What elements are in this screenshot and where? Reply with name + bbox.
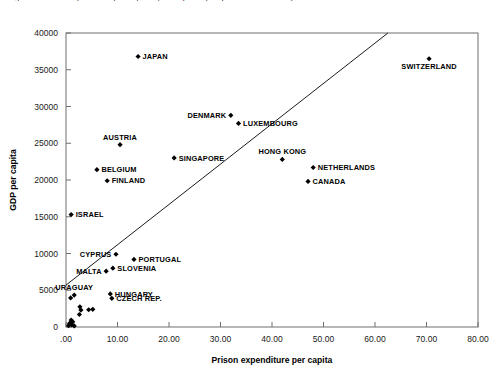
data-point-marker xyxy=(228,113,233,118)
data-points-layer xyxy=(66,54,432,329)
x-tick-label: 70.00 xyxy=(416,334,438,344)
x-tick-label: 50.00 xyxy=(313,334,335,344)
x-tick-label: 80.00 xyxy=(467,334,489,344)
data-point-marker xyxy=(104,269,109,274)
point-label: LUXEMBOURG xyxy=(243,119,298,128)
point-label: SINGAPORE xyxy=(179,154,225,163)
point-label: CYPRUS xyxy=(80,250,112,259)
data-point-marker xyxy=(280,157,285,162)
data-point-marker xyxy=(305,179,310,184)
point-label: ISRAEL xyxy=(76,210,104,219)
point-label: AUSTRIA xyxy=(103,133,137,142)
y-tick-label: 25000 xyxy=(34,138,58,148)
point-label: NETHERLANDS xyxy=(318,163,376,172)
data-point-marker xyxy=(131,257,136,262)
data-point-marker xyxy=(105,178,110,183)
x-tick-label: 20.00 xyxy=(158,334,180,344)
clipped-figure-title: Figure 1. Prison expenditure per capita … xyxy=(8,0,428,1)
chart-canvas: 0500010000150002000025000300003500040000… xyxy=(0,0,503,373)
scatter-chart: Figure 1. Prison expenditure per capita … xyxy=(0,0,503,373)
y-tick-label: 15000 xyxy=(34,212,58,222)
point-labels-layer: JAPANSWITZERLANDDENMARKLUXEMBOURGAUSTRIA… xyxy=(55,52,457,303)
point-label: CZECH REP. xyxy=(116,294,161,303)
data-point-marker xyxy=(110,266,115,271)
y-tick-label: 20000 xyxy=(34,175,58,185)
data-point-marker xyxy=(68,295,73,300)
x-tick-label: 10.00 xyxy=(107,334,129,344)
y-tick-label: 30000 xyxy=(34,102,58,112)
data-point-marker xyxy=(311,165,316,170)
y-tick-label: 10000 xyxy=(34,249,58,259)
x-axis-title: Prison expenditure per capita xyxy=(212,355,333,365)
data-point-marker xyxy=(136,54,141,59)
point-label: BELGIUM xyxy=(101,165,136,174)
data-point-marker xyxy=(426,56,431,61)
point-label: SWITZERLAND xyxy=(401,62,457,71)
y-tick-label: 35000 xyxy=(34,65,58,75)
point-label: SLOVENIA xyxy=(117,264,156,273)
point-label: DENMARK xyxy=(187,111,226,120)
data-point-marker xyxy=(77,312,82,317)
x-tick-label: 40.00 xyxy=(261,334,283,344)
data-point-marker xyxy=(172,155,177,160)
data-point-marker xyxy=(108,291,113,296)
data-point-marker xyxy=(117,142,122,147)
point-label: PORTUGAL xyxy=(138,255,181,264)
point-label: CANADA xyxy=(313,177,346,186)
data-point-marker xyxy=(90,307,95,312)
point-label: HONG KONG xyxy=(258,147,306,156)
data-point-marker xyxy=(236,121,241,126)
trend-line xyxy=(66,33,388,285)
y-tick-label: 0 xyxy=(53,322,58,332)
y-axis-title: GDP per capita xyxy=(8,149,18,211)
point-label: JAPAN xyxy=(143,52,168,61)
data-point-marker xyxy=(113,252,118,257)
x-tick-label: 30.00 xyxy=(210,334,232,344)
point-label: MALTA xyxy=(76,267,102,276)
x-tick-label: 60.00 xyxy=(364,334,386,344)
data-point-marker xyxy=(94,167,99,172)
axis-layer: 0500010000150002000025000300003500040000… xyxy=(34,28,489,344)
trend-line-segment xyxy=(66,33,388,285)
y-tick-label: 40000 xyxy=(34,28,58,38)
x-tick-label: .00 xyxy=(60,334,72,344)
data-point-marker xyxy=(86,307,91,312)
data-point-marker xyxy=(109,296,114,301)
point-label: FINLAND xyxy=(112,176,146,185)
point-label: URAGUAY xyxy=(55,283,93,292)
data-point-marker xyxy=(72,292,77,297)
